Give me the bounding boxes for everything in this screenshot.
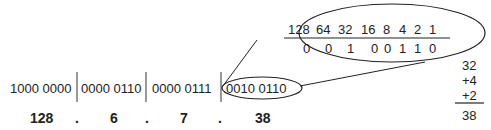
bit: 0 bbox=[325, 41, 332, 56]
octet-4-binary: 0010 0110 bbox=[226, 81, 287, 96]
sum-term: 32 bbox=[462, 58, 476, 73]
sum-term: +2 bbox=[462, 88, 477, 103]
place-value: 8 bbox=[383, 22, 390, 37]
place-value: 64 bbox=[316, 22, 330, 37]
place-value: 4 bbox=[399, 22, 406, 37]
place-value: 16 bbox=[361, 22, 375, 37]
bit: 0 bbox=[371, 41, 378, 56]
sum-term: +4 bbox=[462, 73, 477, 88]
bit: 1 bbox=[399, 41, 406, 56]
octet-1-decimal: 128 bbox=[30, 110, 53, 126]
place-value: 128 bbox=[288, 22, 310, 37]
dot-separator: . bbox=[145, 110, 149, 126]
place-value: 1 bbox=[429, 22, 436, 37]
bit: 0 bbox=[384, 41, 391, 56]
bit: 0 bbox=[303, 41, 310, 56]
octet-2-binary: 0000 0110 bbox=[81, 81, 142, 96]
bit: 1 bbox=[347, 41, 354, 56]
octet-3-decimal: 7 bbox=[180, 110, 188, 126]
diagram-lines bbox=[0, 0, 491, 130]
octet-4-decimal: 38 bbox=[255, 110, 271, 126]
sum-total: 38 bbox=[462, 108, 476, 123]
octet-1-binary: 1000 0000 bbox=[10, 81, 71, 96]
bit: 0 bbox=[429, 41, 436, 56]
dot-separator: . bbox=[75, 110, 79, 126]
octet-2-decimal: 6 bbox=[110, 110, 118, 126]
dot-separator: . bbox=[218, 110, 222, 126]
octet-3-binary: 0000 0111 bbox=[152, 81, 212, 96]
bit: 1 bbox=[414, 41, 421, 56]
place-value: 32 bbox=[338, 22, 352, 37]
place-value: 2 bbox=[414, 22, 421, 37]
